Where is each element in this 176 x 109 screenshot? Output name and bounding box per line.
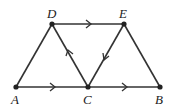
node-b <box>157 84 162 89</box>
node-a <box>13 84 18 89</box>
label-d: D <box>46 6 57 21</box>
edge-e-b <box>124 24 160 87</box>
label-a: A <box>10 92 19 107</box>
label-e: E <box>118 6 127 21</box>
label-b: B <box>155 92 163 107</box>
node-c <box>85 84 90 89</box>
edge-a-d <box>16 24 52 87</box>
graph-diagram: A C B D E <box>0 0 176 109</box>
node-e <box>121 21 126 26</box>
edge-e-c <box>88 24 124 87</box>
label-c: C <box>83 92 92 107</box>
node-d <box>49 21 54 26</box>
edge-c-d <box>52 24 88 87</box>
